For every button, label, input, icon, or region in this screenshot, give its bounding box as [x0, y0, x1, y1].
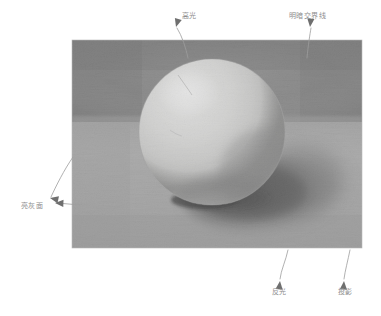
annotation-label-terminator: 明暗交界线 — [289, 13, 326, 20]
annotation-label-cast-shadow: 投影 — [338, 289, 353, 296]
figure-canvas: 高光 明暗交界线 亮灰面 反光 投影 — [0, 0, 381, 316]
drawing-block — [72, 40, 362, 248]
annotation-label-highlight: 高光 — [182, 13, 197, 20]
sphere-pencil-drawing — [0, 0, 381, 316]
annotation-label-reflected-light: 反光 — [272, 289, 287, 296]
annotation-label-light-gray-plane: 亮灰面 — [21, 203, 43, 210]
